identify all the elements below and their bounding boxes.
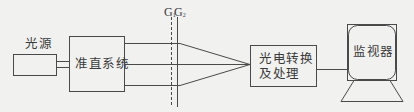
monitor-stand [341, 81, 403, 102]
light-source-label: 光源 [25, 38, 52, 51]
grating-g2-label: G2 [174, 6, 186, 18]
diagram-lines [0, 0, 414, 112]
collimator-label: 准直系统 [75, 58, 129, 71]
light-source-box [14, 55, 57, 76]
beam-top [125, 44, 251, 65]
beam-bottom [125, 65, 251, 86]
monitor-label: 监视器 [353, 46, 394, 59]
photoelectric-label-line2: 及处理 [259, 68, 300, 81]
diagram-canvas: 光源 准直系统 G1 G2 光电转换 及处理 监视器 [0, 0, 414, 112]
photoelectric-label-line1: 光电转换 [259, 53, 313, 66]
